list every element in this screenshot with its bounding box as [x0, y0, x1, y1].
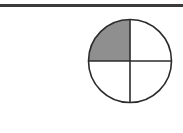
- fraction-circle: [0, 0, 183, 133]
